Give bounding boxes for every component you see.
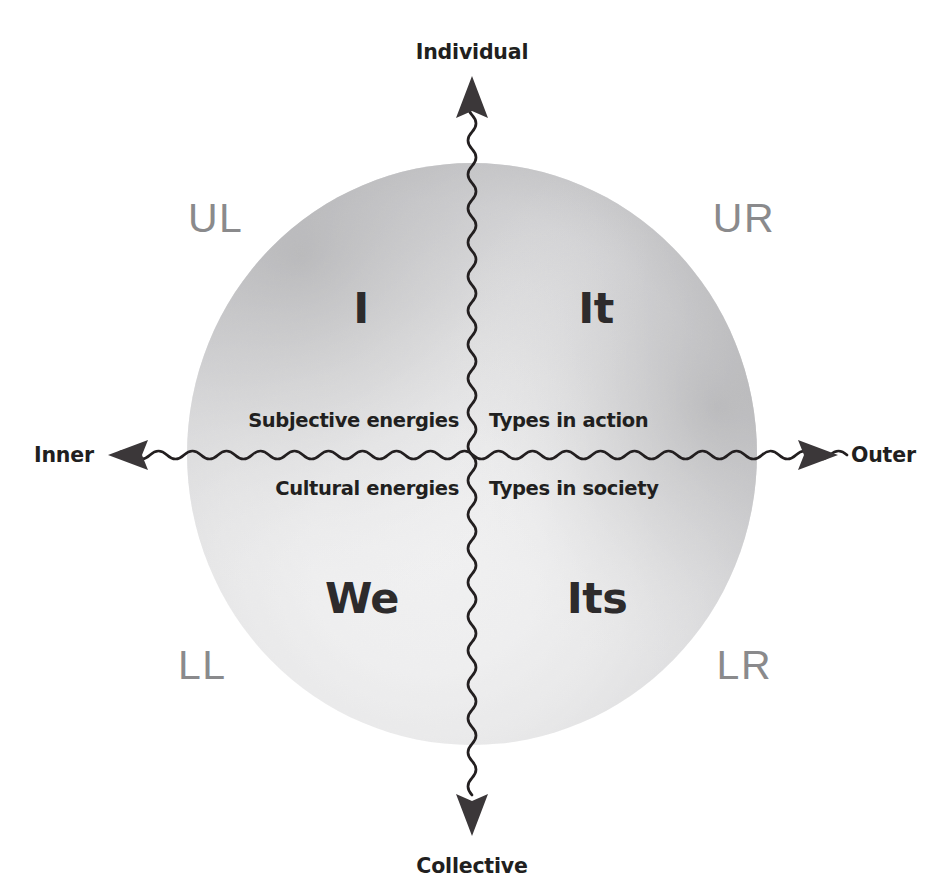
quadrant-descriptor-ur: Types in action (489, 411, 648, 431)
quadrant-descriptor-ul: Subjective energies (248, 411, 459, 431)
quadrant-code-ul: UL (188, 198, 243, 239)
axis-label-outer: Outer (851, 445, 916, 466)
quadrant-code-ur: UR (713, 198, 775, 239)
axis-label-individual: Individual (416, 42, 528, 63)
four-quadrants-diagram: Individual Collective Inner Outer UL UR … (0, 0, 949, 890)
quadrant-graphic (0, 0, 949, 890)
inner-arrowhead (108, 440, 148, 470)
quadrant-code-ll: LL (178, 645, 227, 686)
quadrant-pronoun-it: It (578, 287, 614, 330)
quadrant-pronoun-its: Its (567, 577, 628, 620)
quadrant-code-lr: LR (717, 645, 772, 686)
quadrant-descriptor-lr: Types in society (489, 479, 659, 499)
quadrant-pronoun-i: I (353, 287, 369, 330)
axis-label-collective: Collective (416, 856, 527, 877)
quadrant-pronoun-we: We (325, 577, 399, 620)
quadrant-descriptor-ll: Cultural energies (275, 479, 459, 499)
axis-label-inner: Inner (34, 445, 94, 466)
individual-arrowhead (456, 76, 488, 118)
outer-arrowhead (798, 440, 838, 470)
collective-arrowhead (456, 794, 488, 836)
